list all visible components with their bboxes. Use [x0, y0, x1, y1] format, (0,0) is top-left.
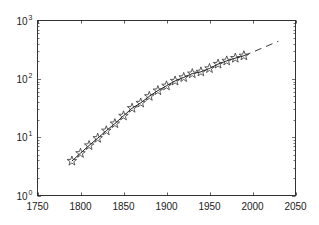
x-tick-label: 2050 [284, 201, 307, 212]
y-tick-exponent: 1 [29, 130, 33, 137]
x-tick-labels: 1750180018501900195020002050 [26, 201, 307, 212]
y-tick-exponent: 0 [29, 189, 33, 196]
y-tick-labels: 100101102103 [16, 14, 32, 202]
star-markers [67, 51, 249, 165]
x-tick-label: 2000 [241, 201, 264, 212]
y-tick-label: 10 [16, 132, 28, 143]
y-tick-label: 10 [16, 74, 28, 85]
plot-frame [38, 21, 296, 196]
extrapolation-dashed-line [244, 41, 278, 55]
y-tick-label: 10 [16, 191, 28, 202]
x-tick-label: 1850 [112, 201, 135, 212]
log-plot: 1750180018501900195020002050 10010110210… [0, 0, 319, 225]
x-tick-label: 1800 [69, 201, 92, 212]
y-tick-label: 10 [16, 16, 28, 27]
y-tick-exponent: 2 [29, 72, 33, 79]
y-tick-exponent: 3 [29, 14, 33, 21]
data-line [72, 56, 244, 161]
axis-ticks [38, 21, 297, 197]
x-tick-label: 1950 [198, 201, 221, 212]
x-tick-label: 1900 [155, 201, 178, 212]
axes-box [38, 21, 296, 196]
x-tick-label: 1750 [26, 201, 49, 212]
